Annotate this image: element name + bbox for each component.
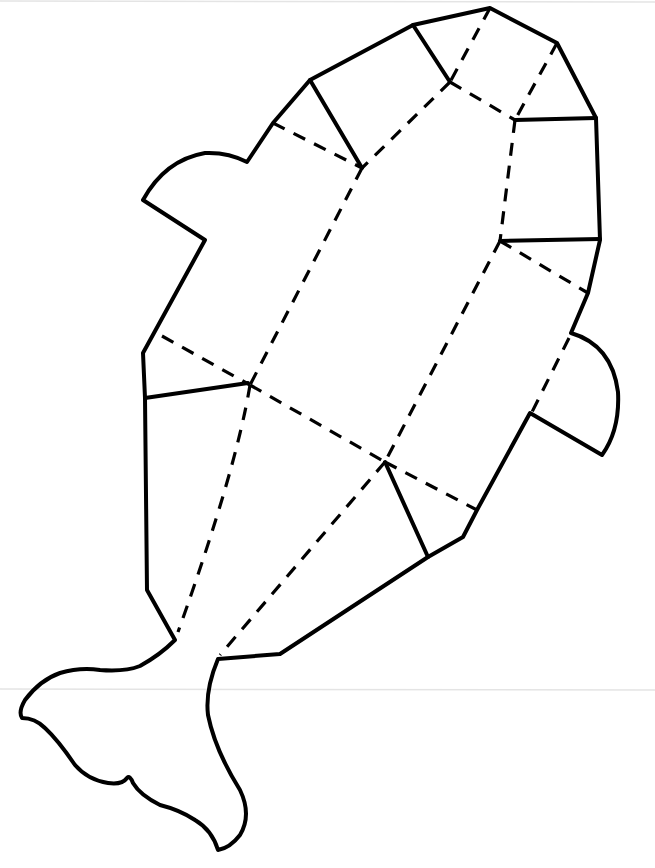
cut-right-lower — [500, 239, 600, 241]
scan-line-1 — [0, 689, 655, 690]
scan-line-0 — [0, 1, 655, 2]
page-background — [0, 0, 655, 868]
cut-right-upper — [515, 118, 596, 120]
whale-template-diagram — [0, 0, 655, 868]
